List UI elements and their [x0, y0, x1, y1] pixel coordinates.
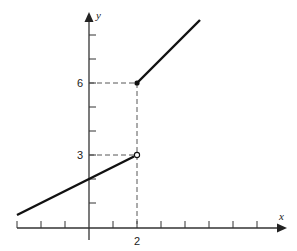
tick-label-x-2: 2: [134, 235, 140, 247]
y-axis-label: y: [95, 9, 101, 21]
closed-endpoint: [134, 80, 139, 85]
tick-label-y-6: 6: [77, 77, 83, 89]
left-piece-line: [17, 157, 134, 216]
open-endpoint: [134, 152, 139, 157]
x-axis-label: x: [278, 210, 284, 222]
tick-label-y-3: 3: [77, 149, 83, 161]
dashed-guides: [89, 83, 137, 228]
x-axis-arrow-icon: [277, 224, 287, 233]
right-piece-line: [137, 20, 200, 83]
y-axis-arrow-icon: [85, 12, 94, 22]
piecewise-function-graph: y x 6 3 2: [0, 0, 297, 251]
